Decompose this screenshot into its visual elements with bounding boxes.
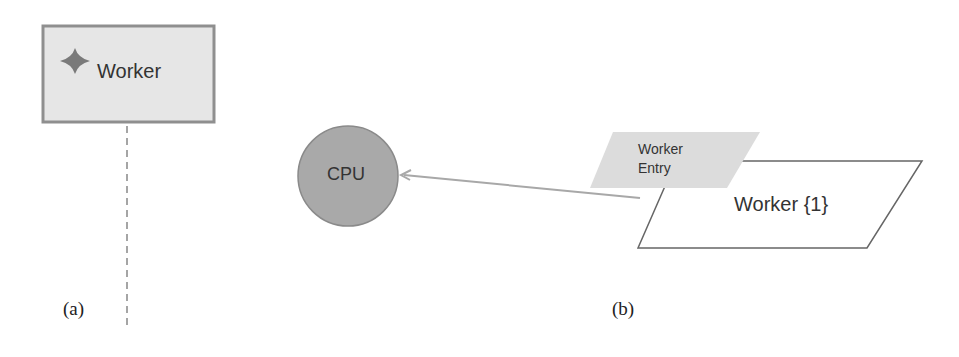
cpu-label: CPU [327,164,365,185]
entry-label-line1: Worker [638,141,683,157]
caption-b: (b) [612,298,634,320]
entry-label-line2: Entry [638,160,671,176]
caption-a: (a) [63,298,84,320]
worker-1-label: Worker {1} [734,193,828,216]
diagram-canvas [0,0,959,357]
worker-box-label: Worker [97,60,161,83]
